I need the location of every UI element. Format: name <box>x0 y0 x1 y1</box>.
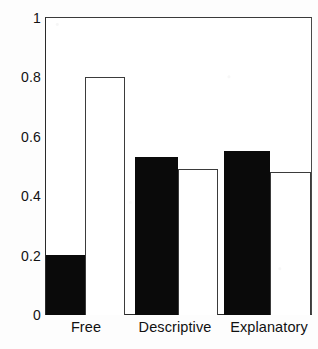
y-axis: 1 0.8 0.6 0.4 0.2 0 <box>0 0 41 349</box>
bar-explanatory-hollow <box>270 172 311 315</box>
x-tick-label-explanatory: Explanatory <box>221 320 317 336</box>
bar-descriptive-filled <box>135 157 178 315</box>
bar-chart: 1 0.8 0.6 0.4 0.2 0 Free Descriptive Exp… <box>0 0 318 349</box>
y-tick-label-0.4: 0.4 <box>21 189 41 203</box>
bars-layer <box>45 17 312 315</box>
y-tick-label-0: 0 <box>33 308 41 322</box>
x-axis: Free Descriptive Explanatory <box>45 320 312 346</box>
bar-free-filled <box>46 255 85 315</box>
y-tick-label-0.2: 0.2 <box>21 249 41 263</box>
bar-explanatory-filled <box>224 151 270 315</box>
bar-descriptive-hollow <box>178 169 218 315</box>
bar-free-hollow <box>85 77 125 315</box>
y-tick-label-0.8: 0.8 <box>21 70 41 84</box>
x-tick-label-free: Free <box>45 320 127 336</box>
y-tick-label-0.6: 0.6 <box>21 130 41 144</box>
x-tick-label-descriptive: Descriptive <box>129 320 221 336</box>
y-tick-label-1: 1 <box>33 11 41 25</box>
